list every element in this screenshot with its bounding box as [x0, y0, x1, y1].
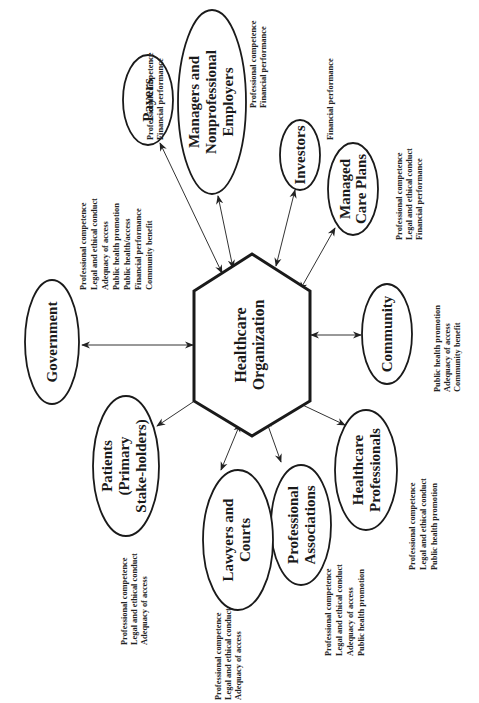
hub-healthcare-organization: Healthcare Organization: [194, 254, 310, 436]
note-government-4: Public health promotion: [112, 203, 121, 290]
label-managed-care-2: Care Plans: [353, 154, 369, 224]
ellipse-professional-associations: [271, 465, 331, 585]
note-community-1: Public health promotion: [433, 305, 442, 392]
label-managers-3: Employers: [220, 67, 236, 136]
note-payers-1: Professional competence: [146, 52, 155, 140]
arrow-investors: [276, 190, 295, 266]
stakeholder-diagram: Healthcare Organization Payers Professio…: [0, 0, 479, 703]
note-government-6: Financial performance: [134, 208, 143, 290]
node-investors: Investors Financial performance: [280, 58, 335, 190]
note-professional-associations-4: Public health promotion: [357, 569, 366, 656]
hub-label-line2: Organization: [250, 300, 268, 391]
note-patients-2: Legal and ethical conduct: [130, 553, 139, 645]
label-government: Government: [44, 302, 60, 383]
note-professional-associations-3: Adequacy of access: [346, 586, 355, 656]
note-government-2: Legal and ethical conduct: [90, 198, 99, 290]
node-healthcare-professionals: Healthcare Professionals Professional co…: [335, 410, 439, 570]
label-managed-care-1: Managed: [337, 158, 353, 219]
node-lawyers-and-courts: Lawyers and Courts Professional competen…: [203, 470, 273, 700]
note-government-7: Community benefit: [145, 220, 154, 290]
note-investors-1: Financial performance: [326, 58, 335, 140]
note-government-5: Public health/access: [123, 218, 132, 290]
note-managed-care-1: Professional competence: [395, 152, 404, 240]
node-government: Government Professional competence Legal…: [25, 198, 154, 404]
note-patients-1: Professional competence: [120, 557, 129, 645]
label-patients-2: (Primary: [116, 436, 133, 496]
note-community-2: Adequacy of access: [443, 322, 452, 392]
note-professional-associations-2: Legal and ethical conduct: [335, 564, 344, 656]
label-community: Community: [379, 295, 395, 372]
note-professional-associations-1: Professional competence: [324, 568, 333, 656]
note-government-3: Adequacy of access: [101, 220, 110, 290]
note-managers-2: Financial performance: [259, 26, 268, 108]
node-payers: Payers Professional competence Financial…: [123, 52, 173, 145]
note-healthcare-professionals-1: Professional competence: [408, 482, 417, 570]
note-healthcare-professionals-3: Public health promotion: [430, 483, 439, 570]
ellipse-healthcare-professionals: [335, 410, 397, 530]
label-healthcare-professionals-1: Healthcare: [350, 434, 366, 505]
label-lawyers-1: Lawyers and: [220, 498, 236, 582]
label-professional-associations-1: Professional: [285, 486, 301, 564]
hub-label-line1: Healthcare: [232, 307, 249, 382]
note-managed-care-2: Legal and ethical conduct: [405, 148, 414, 240]
note-healthcare-professionals-2: Legal and ethical conduct: [419, 478, 428, 570]
note-lawyers-2: Legal and ethical conduct: [224, 608, 233, 700]
arrow-managed-care: [300, 228, 335, 290]
label-investors: Investors: [292, 125, 308, 184]
label-healthcare-professionals-2: Professionals: [367, 428, 383, 512]
note-patients-3: Adequacy of access: [140, 575, 149, 645]
node-managed-care-plans: Managed Care Plans Professional competen…: [328, 143, 424, 240]
node-community: Community Public health promotion Adequa…: [362, 284, 462, 392]
note-managed-care-3: Financial performance: [415, 158, 424, 240]
arrow-managers: [218, 196, 233, 268]
node-patients: Patients (Primary Stake-holders) Profess…: [93, 396, 159, 645]
label-lawyers-2: Courts: [237, 518, 253, 562]
note-lawyers-1: Professional competence: [214, 612, 223, 700]
node-managers: Managers and Nonprofessional Employers P…: [178, 10, 268, 194]
note-community-3: Community benefit: [453, 322, 462, 392]
label-managers-2: Nonprofessional: [203, 50, 219, 154]
note-managers-1: Professional competence: [249, 20, 258, 108]
arrow-lawyers: [221, 424, 240, 470]
label-patients-3: Stake-holders): [133, 419, 150, 512]
note-government-1: Professional competence: [79, 202, 88, 290]
note-lawyers-3: Adequacy of access: [234, 630, 243, 700]
note-payers-2: Financial performance: [156, 58, 165, 140]
label-managers-1: Managers and: [186, 55, 202, 148]
label-patients-1: Patients: [99, 440, 115, 492]
label-professional-associations-2: Associations: [302, 485, 318, 564]
